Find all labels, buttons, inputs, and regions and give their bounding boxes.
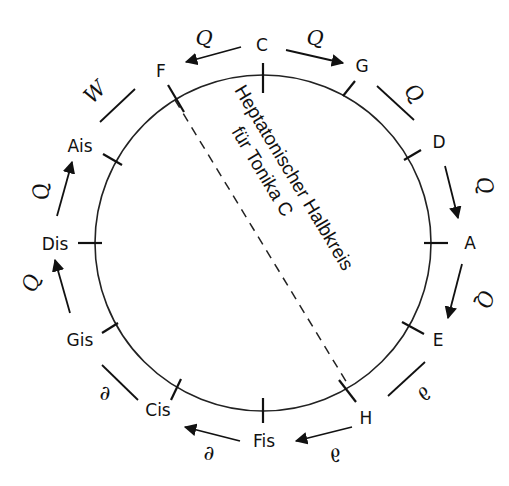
- note-label-a: A: [464, 233, 476, 253]
- interval-symbols: Q Q Q Q Q ∂ ∂ ∂ ∂ Q Q W: [17, 26, 498, 469]
- arrow-c-to-f: [186, 47, 241, 62]
- arrow-d-to-a: [445, 166, 458, 218]
- note-label-c: C: [256, 35, 268, 55]
- arrow-c-to-g: [286, 50, 343, 63]
- arrow-h-to-fis: [296, 427, 352, 441]
- arrow-fis-to-cis: [185, 427, 240, 441]
- symbol-h-fis: ∂: [327, 443, 344, 469]
- symbol-ais-f: W: [79, 74, 113, 108]
- note-label-d: D: [432, 132, 445, 152]
- symbol-d-a: Q: [471, 174, 499, 197]
- arrow-dis-to-ais: [57, 162, 72, 216]
- title-line-1: Heptatonischer Halbkreis: [231, 81, 358, 274]
- note-label-gis: Gis: [67, 330, 94, 350]
- symbol-e-h: ∂: [413, 382, 438, 407]
- diagram-title: Heptatonischer Halbkreis für Tonika C: [210, 81, 358, 286]
- tick-f: [168, 85, 184, 112]
- symbol-gis-dis: Q: [17, 272, 45, 295]
- note-label-ais: Ais: [67, 136, 92, 156]
- arrow-a-to-e: [448, 264, 462, 318]
- symbol-dis-ais: Q: [27, 180, 55, 203]
- note-label-fis: Fis: [253, 431, 275, 451]
- symbol-c-f: Q: [195, 26, 212, 50]
- note-label-f: F: [156, 61, 166, 81]
- symbol-fis-cis: ∂: [204, 441, 215, 465]
- arrow-gis-to-dis: [55, 260, 70, 313]
- symbol-g-d: Q: [399, 78, 428, 107]
- note-label-h: H: [360, 408, 373, 428]
- note-label-e: E: [433, 330, 444, 350]
- heptatonic-circle-diagram: C G D A E H Fis Cis Gis Dis Ais F Q Q Q …: [0, 0, 509, 486]
- tick-g: [343, 81, 355, 96]
- tick-gis: [102, 323, 118, 333]
- note-label-dis: Dis: [42, 234, 69, 254]
- note-label-g: G: [355, 56, 368, 76]
- symbol-a-e: Q: [471, 287, 499, 310]
- symbol-cis-gis: ∂: [100, 381, 111, 405]
- note-label-cis: Cis: [145, 400, 171, 420]
- symbol-c-g: Q: [306, 26, 323, 50]
